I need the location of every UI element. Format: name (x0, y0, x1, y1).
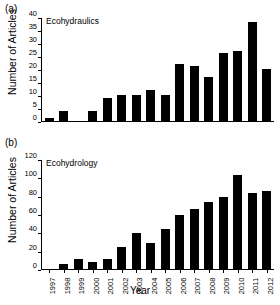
panel-b-bars (42, 160, 274, 269)
bar-cell (260, 160, 275, 269)
bar (74, 259, 83, 269)
bar (132, 233, 141, 269)
bar-cell (42, 18, 57, 121)
y-tick-mark (38, 70, 41, 71)
bar-cell (57, 18, 72, 121)
bar (88, 262, 97, 269)
panel-b-y-axis-title: Number of Articles (6, 141, 18, 259)
bar (161, 229, 170, 269)
bar (132, 95, 141, 121)
bar (103, 259, 112, 269)
bar (248, 193, 257, 269)
bar (59, 111, 68, 121)
bar-cell (173, 160, 188, 269)
y-tick-mark (38, 109, 41, 110)
y-tick-mark (38, 83, 41, 84)
bar-cell (100, 160, 115, 269)
y-tick-mark (38, 44, 41, 45)
bar-cell (187, 160, 202, 269)
y-tick-mark (38, 197, 41, 198)
y-tick-mark (38, 270, 41, 271)
bar-cell (100, 18, 115, 121)
bar-cell (216, 18, 231, 121)
y-tick-mark (38, 31, 41, 32)
bar-cell (129, 18, 144, 121)
bar (146, 243, 155, 269)
panel-a-x-axis-line (41, 121, 274, 122)
bar-cell (129, 160, 144, 269)
bar (233, 51, 242, 121)
bar (175, 215, 184, 269)
bar (219, 53, 228, 121)
y-tick-mark (38, 57, 41, 58)
bar (117, 95, 126, 121)
y-tick-mark (38, 160, 41, 161)
y-tick-mark (38, 96, 41, 97)
y-tick-mark (38, 122, 41, 123)
y-tick-mark (38, 233, 41, 234)
figure-bar-charts: (a) Number of Articles Ecohydraulics 051… (0, 0, 280, 305)
bar (117, 247, 126, 269)
bar (248, 22, 257, 121)
bar-cell (173, 18, 188, 121)
bar (204, 202, 213, 269)
bar-cell (187, 18, 202, 121)
bar (45, 118, 54, 121)
bar (103, 98, 112, 121)
bar-cell (158, 160, 173, 269)
bar-cell (57, 160, 72, 269)
panel-a-y-axis-title: Number of Articles (6, 0, 18, 111)
bar (262, 69, 271, 121)
bar (146, 90, 155, 121)
y-tick-mark (38, 252, 41, 253)
panel-a-ecohydraulics: (a) Number of Articles Ecohydraulics 051… (0, 0, 280, 140)
bar-cell (144, 160, 159, 269)
bar-cell (144, 18, 159, 121)
panel-b-ecohydrology: (b) Number of Articles Ecohydrology 0204… (0, 138, 280, 305)
bar (161, 95, 170, 121)
bar-cell (115, 18, 130, 121)
bar-cell (245, 18, 260, 121)
bar-cell (245, 160, 260, 269)
bar (204, 77, 213, 121)
bar-cell (115, 160, 130, 269)
bar-cell (216, 160, 231, 269)
panel-a-plot-area: Ecohydraulics 0510152025303540 (41, 18, 274, 122)
bar-cell (158, 18, 173, 121)
y-tick-mark (38, 18, 41, 19)
panel-a-bars (42, 18, 274, 121)
bar (88, 111, 97, 121)
bar-cell (71, 18, 86, 121)
bar-cell (42, 160, 57, 269)
bar-cell (231, 18, 246, 121)
bar (175, 64, 184, 121)
bar (219, 197, 228, 269)
bar-cell (86, 18, 101, 121)
bar (59, 264, 68, 270)
panel-b-plot-area: Ecohydrology 020406080100120 (41, 160, 274, 270)
x-axis-title: Year (0, 285, 280, 296)
bar-cell (202, 18, 217, 121)
bar-cell (86, 160, 101, 269)
bar (262, 191, 271, 269)
bar (190, 66, 199, 121)
bar (190, 209, 199, 270)
bar-cell (71, 160, 86, 269)
bar (233, 175, 242, 269)
y-tick-mark (38, 178, 41, 179)
bar-cell (231, 160, 246, 269)
bar-cell (260, 18, 275, 121)
y-tick-mark (38, 215, 41, 216)
bar-cell (202, 160, 217, 269)
